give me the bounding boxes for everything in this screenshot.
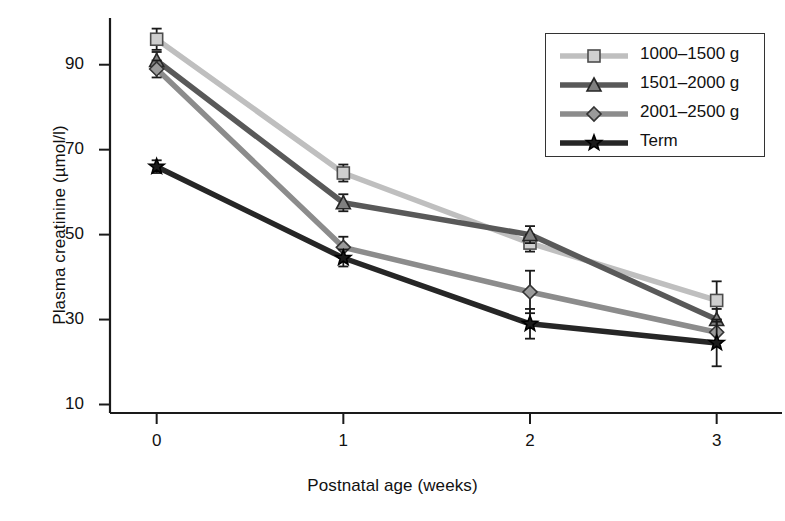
y-tick-label: 30 — [44, 309, 84, 329]
data-point-square — [337, 167, 349, 179]
y-tick-label: 70 — [44, 139, 84, 159]
legend-row: 2001–2500 g — [546, 98, 766, 129]
x-axis-title: Postnatal age (weeks) — [0, 476, 785, 496]
x-tick-label: 1 — [323, 431, 363, 451]
data-point-square — [588, 50, 600, 62]
y-tick-label: 90 — [44, 54, 84, 74]
data-point-diamond — [587, 107, 601, 121]
data-point-star — [709, 335, 724, 349]
legend-swatch-2001-2500 — [558, 98, 630, 129]
legend-row: 1000–1500 g — [546, 40, 766, 71]
legend-label-2001-2500: 2001–2500 g — [640, 102, 739, 122]
x-tick-label: 0 — [137, 431, 177, 451]
legend-row: Term — [546, 127, 766, 158]
x-tick-label: 2 — [510, 431, 550, 451]
y-tick-label: 50 — [44, 224, 84, 244]
legend-label-term: Term — [640, 131, 678, 151]
legend-row: 1501–2000 g — [546, 69, 766, 100]
legend-label-1000-1500: 1000–1500 g — [640, 44, 739, 64]
legend-swatch-term — [558, 127, 630, 158]
legend-label-1501-2000: 1501–2000 g — [640, 73, 739, 93]
data-point-star — [586, 135, 601, 149]
data-point-square — [711, 294, 723, 306]
data-point-diamond — [523, 285, 537, 299]
legend[interactable]: 1000–1500 g 1501–2000 g 2001–2500 g Term — [545, 33, 765, 157]
y-tick-label: 10 — [44, 394, 84, 414]
legend-swatch-1000-1500 — [558, 40, 630, 71]
x-tick-label: 3 — [697, 431, 737, 451]
figure: Postnatal age (weeks) Plasma creatinine … — [0, 0, 785, 521]
data-point-star — [522, 316, 537, 330]
legend-swatch-1501-2000 — [558, 69, 630, 100]
data-point-square — [151, 33, 163, 45]
